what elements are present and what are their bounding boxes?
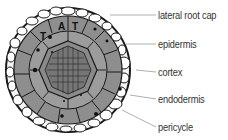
marker-t1: T <box>72 21 78 32</box>
marker-a: A <box>58 21 65 32</box>
label-cortex: cortex <box>158 66 182 78</box>
leader-cortex <box>136 70 156 72</box>
marker-t2: T <box>40 31 46 42</box>
label-epidermis: epidermis <box>158 38 196 50</box>
leader-endodermis <box>130 95 156 99</box>
label-endodermis: endodermis <box>158 93 205 105</box>
root-cross-section-diagram: A T T <box>0 0 228 140</box>
leader-pericycle <box>122 110 156 127</box>
stele <box>45 46 91 94</box>
label-pericycle: pericycle <box>158 121 193 133</box>
label-lateral-root-cap: lateral root cap <box>158 9 216 21</box>
